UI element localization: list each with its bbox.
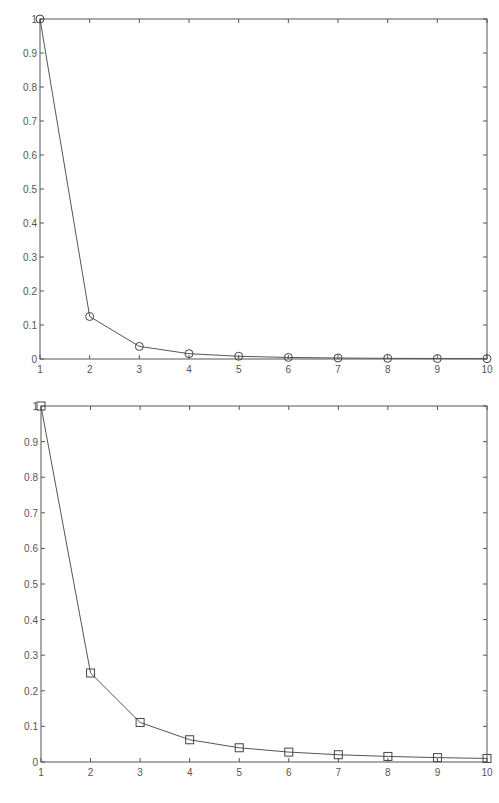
y-tick-label: 0.5 [23, 184, 37, 195]
y-tick-label: 0.9 [23, 48, 37, 59]
x-tick-label: 6 [286, 767, 292, 778]
plot-area-frame [41, 406, 487, 762]
y-tick-label: 0.5 [24, 579, 38, 590]
data-line [40, 19, 487, 359]
y-tick-label: 0.6 [23, 150, 37, 161]
y-tick-label: 0.6 [24, 543, 38, 554]
bottom-chart-square-markers: 1234567891000.10.20.30.40.50.60.70.80.91 [24, 401, 493, 778]
y-tick-label: 0.7 [23, 116, 37, 127]
x-tick-label: 2 [87, 364, 93, 375]
x-tick-label: 7 [336, 767, 342, 778]
x-tick-label: 7 [335, 364, 341, 375]
y-tick-label: 0.4 [23, 218, 37, 229]
x-tick-label: 4 [186, 364, 192, 375]
x-tick-label: 1 [37, 364, 43, 375]
x-tick-label: 8 [385, 767, 391, 778]
x-tick-label: 9 [435, 364, 441, 375]
y-tick-label: 0.8 [24, 472, 38, 483]
x-tick-label: 5 [236, 364, 242, 375]
x-tick-label: 4 [187, 767, 193, 778]
x-tick-label: 6 [286, 364, 292, 375]
y-tick-label: 0.7 [24, 508, 38, 519]
x-tick-label: 10 [481, 767, 493, 778]
x-tick-label: 3 [137, 364, 143, 375]
x-tick-label: 3 [137, 767, 143, 778]
y-tick-label: 0.1 [24, 721, 38, 732]
y-tick-label: 0.4 [24, 615, 38, 626]
y-tick-label: 1 [31, 14, 37, 25]
y-tick-label: 0.1 [23, 320, 37, 331]
y-tick-label: 0 [31, 354, 37, 365]
y-tick-label: 0.3 [24, 650, 38, 661]
x-tick-label: 8 [385, 364, 391, 375]
y-tick-label: 0.2 [23, 286, 37, 297]
x-tick-label: 5 [236, 767, 242, 778]
x-tick-label: 9 [435, 767, 441, 778]
x-tick-label: 10 [481, 364, 493, 375]
y-tick-label: 0.3 [23, 252, 37, 263]
y-tick-label: 0 [32, 757, 38, 768]
y-tick-label: 0.9 [24, 437, 38, 448]
figure-canvas: 1234567891000.10.20.30.40.50.60.70.80.91… [0, 0, 499, 803]
x-tick-label: 2 [88, 767, 94, 778]
plot-area-frame [40, 19, 487, 359]
data-line [41, 406, 487, 758]
top-chart-circle-markers: 1234567891000.10.20.30.40.50.60.70.80.91 [23, 14, 493, 375]
y-tick-label: 0.8 [23, 82, 37, 93]
x-tick-label: 1 [38, 767, 44, 778]
y-tick-label: 0.2 [24, 686, 38, 697]
